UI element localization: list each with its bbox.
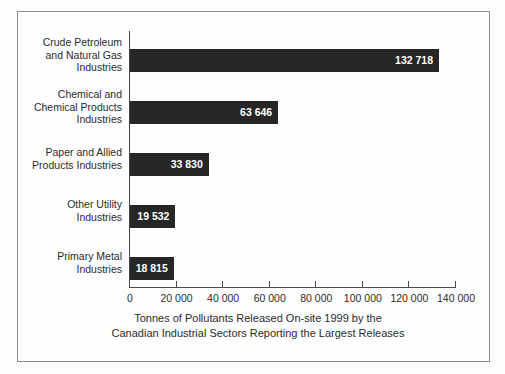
bar-value-label: 19 532	[130, 205, 175, 228]
x-axis-tick-label: 120 000	[390, 292, 428, 304]
chart-screenshot: 020 00040 00060 00080 000100 000120 0001…	[0, 0, 505, 374]
category-label-line: Crude Petroleum	[18, 36, 122, 49]
chart-category-row: Paper and AlliedProducts Industries33 83…	[18, 135, 491, 187]
category-label-line: Industries	[18, 61, 122, 74]
category-label-line: Products Industries	[18, 159, 122, 172]
chart-category-row: Primary MetalIndustries18 815	[18, 239, 491, 291]
x-axis-tick-label: 100 000	[344, 292, 382, 304]
x-axis-caption-line: Canadian Industrial Sectors Reporting th…	[78, 326, 438, 341]
x-axis-tick-label: 40 000	[207, 292, 239, 304]
bar-value-label: 33 830	[130, 153, 209, 176]
chart-frame: 020 00040 00060 00080 000100 000120 0001…	[17, 11, 490, 362]
category-label-line: Industries	[18, 263, 122, 276]
category-label-line: Chemical and	[18, 88, 122, 101]
category-label: Crude Petroleumand Natural GasIndustries	[18, 36, 122, 74]
category-label-line: Other Utility	[18, 198, 122, 211]
category-label: Other UtilityIndustries	[18, 198, 122, 223]
x-axis-tick-label: 60 000	[254, 292, 286, 304]
bar-value-label: 132 718	[130, 49, 439, 72]
bar-value-label: 18 815	[130, 257, 174, 280]
category-label-line: Industries	[18, 211, 122, 224]
category-label-line: Industries	[18, 113, 122, 126]
category-label-line: and Natural Gas	[18, 49, 122, 62]
plot-area: 020 00040 00060 00080 000100 000120 0001…	[18, 12, 491, 363]
category-label: Primary MetalIndustries	[18, 250, 122, 275]
x-axis-caption-line: Tonnes of Pollutants Released On-site 19…	[78, 311, 438, 326]
chart-category-row: Other UtilityIndustries19 532	[18, 187, 491, 239]
chart-category-row: Chemical andChemical ProductsIndustries6…	[18, 83, 491, 135]
category-label-line: Primary Metal	[18, 250, 122, 263]
x-axis-tick-label: 0	[127, 292, 133, 304]
category-label: Paper and AlliedProducts Industries	[18, 146, 122, 171]
category-label-line: Chemical Products	[18, 101, 122, 114]
category-label-line: Paper and Allied	[18, 146, 122, 159]
x-axis-tick-label: 80 000	[300, 292, 332, 304]
x-axis-tick-label: 140 000	[437, 292, 475, 304]
category-label: Chemical andChemical ProductsIndustries	[18, 88, 122, 126]
bar-value-label: 63 646	[130, 101, 278, 124]
chart-category-row: Crude Petroleumand Natural GasIndustries…	[18, 31, 491, 83]
x-axis-tick-label: 20 000	[161, 292, 193, 304]
x-axis-caption: Tonnes of Pollutants Released On-site 19…	[78, 311, 438, 340]
